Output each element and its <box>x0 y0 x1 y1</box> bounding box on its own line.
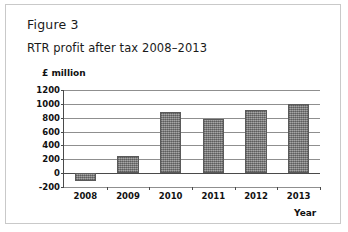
y-tick-mark <box>61 90 64 91</box>
y-tick-label: 400 <box>42 141 60 150</box>
gridline-1000 <box>64 104 320 105</box>
figure-frame: Figure 3 RTR profit after tax 2008–2013 … <box>5 4 341 224</box>
bar-2012 <box>245 110 266 173</box>
y-tick-mark <box>61 173 64 174</box>
y-tick-mark <box>61 132 64 133</box>
x-tick-label-2010: 2010 <box>159 192 183 201</box>
gridline-200 <box>64 159 320 160</box>
bar-2010 <box>160 112 181 173</box>
gridline-600 <box>64 132 320 133</box>
bar-2009 <box>117 156 138 173</box>
x-tick-mark <box>149 187 150 190</box>
y-tick-mark <box>61 159 64 160</box>
bar-2013 <box>288 104 309 173</box>
x-tick-mark <box>107 187 108 190</box>
x-tick-label-2012: 2012 <box>244 192 268 201</box>
y-tick-mark <box>61 145 64 146</box>
bar-2008 <box>75 173 96 181</box>
y-tick-label: 800 <box>42 113 60 122</box>
gridline-800 <box>64 118 320 119</box>
x-tick-mark <box>235 187 236 190</box>
y-tick-label: 200 <box>42 155 60 164</box>
y-tick-label: 600 <box>42 127 60 136</box>
bar-2011 <box>203 119 224 173</box>
figure-label: Figure 3 <box>27 17 79 32</box>
y-tick-mark <box>61 104 64 105</box>
x-tick-mark <box>192 187 193 190</box>
plot-area: 120010008006004002000-200 20082009201020… <box>64 90 320 187</box>
x-axis-label: Year <box>294 208 316 218</box>
y-tick-label: -200 <box>39 183 60 192</box>
y-tick-mark <box>61 187 64 188</box>
y-tick-label: 1200 <box>36 86 60 95</box>
y-tick-label: 1000 <box>36 100 60 109</box>
x-tick-label-2013: 2013 <box>287 192 311 201</box>
x-tick-label-2008: 2008 <box>73 192 97 201</box>
gridline-1200 <box>64 90 320 91</box>
x-tick-label-2011: 2011 <box>201 192 225 201</box>
y-tick-label: 0 <box>54 169 60 178</box>
gridline-0 <box>64 173 320 174</box>
y-tick-mark <box>61 118 64 119</box>
gridline-400 <box>64 145 320 146</box>
chart-title: RTR profit after tax 2008–2013 <box>27 41 207 55</box>
x-tick-label-2009: 2009 <box>116 192 140 201</box>
x-tick-mark <box>277 187 278 190</box>
y-axis-label: £ million <box>42 68 86 78</box>
x-tick-mark <box>320 187 321 190</box>
